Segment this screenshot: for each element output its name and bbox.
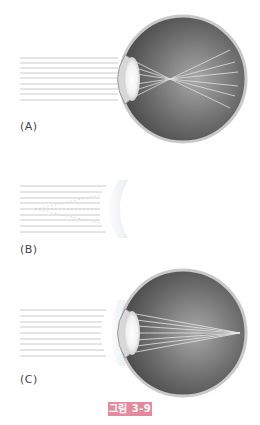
concave-lens xyxy=(109,180,128,238)
panel-c-corrected-eye xyxy=(20,270,246,396)
panel-label-a: (A) xyxy=(20,120,38,133)
lens xyxy=(124,57,140,101)
incoming-rays xyxy=(20,310,106,356)
panel-label-c: (C) xyxy=(20,373,38,386)
panel-a-eye xyxy=(20,16,246,142)
eye-diagram xyxy=(0,0,260,425)
incoming-rays xyxy=(20,58,118,100)
panel-b-concave-lens xyxy=(20,180,128,238)
panel-label-b: (B) xyxy=(20,243,38,256)
figure-caption: 그림 3-9 xyxy=(108,402,152,416)
